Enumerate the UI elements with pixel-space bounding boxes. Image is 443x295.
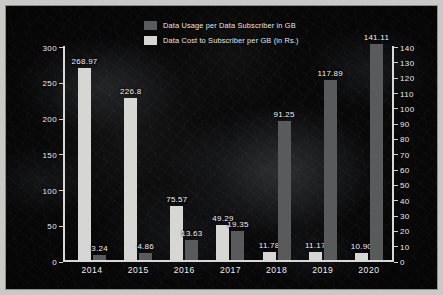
bar-group: 11.17117.892019 bbox=[300, 46, 346, 260]
bar-value-usage: 91.25 bbox=[273, 110, 294, 119]
legend-swatch-cost bbox=[144, 36, 157, 45]
bar-value-usage: 117.89 bbox=[318, 69, 343, 78]
right-axis-tick bbox=[394, 246, 398, 247]
bar-cost[interactable]: 11.17 bbox=[309, 252, 322, 260]
plot-area: 050100150200250300 010203040506070809010… bbox=[63, 46, 394, 262]
right-axis-tick-label: 110 bbox=[400, 89, 414, 98]
right-axis-tick bbox=[394, 170, 398, 171]
bar-usage[interactable]: 91.25 bbox=[278, 121, 291, 261]
bar-usage[interactable]: 19.35 bbox=[231, 231, 244, 261]
right-axis-tick bbox=[394, 231, 398, 232]
right-axis-tick-label: 80 bbox=[400, 135, 410, 144]
bar-group: 11.7891.252018 bbox=[254, 46, 300, 260]
bar-group: 75.5713.632016 bbox=[161, 46, 207, 260]
right-axis-tick bbox=[394, 62, 398, 63]
legend-item-usage: Data Usage per Data Subscriber in GB bbox=[144, 19, 299, 32]
left-axis-tick-label: 50 bbox=[47, 222, 57, 231]
bar-usage[interactable]: 141.11 bbox=[370, 44, 383, 260]
right-axis-tick bbox=[394, 185, 398, 186]
right-axis-tick-label: 70 bbox=[400, 150, 410, 159]
bottom-axis-line bbox=[63, 260, 394, 262]
category-label: 2020 bbox=[358, 265, 379, 275]
right-axis-tick-label: 50 bbox=[400, 181, 410, 190]
category-label: 2014 bbox=[82, 265, 103, 275]
bar-cost[interactable]: 11.78 bbox=[263, 252, 276, 260]
left-axis-tick bbox=[59, 190, 63, 191]
bar-value-usage: 13.63 bbox=[181, 229, 202, 238]
left-axis-tick bbox=[59, 154, 63, 155]
bar-value-usage: 19.35 bbox=[227, 220, 248, 229]
right-axis-tick-label: 90 bbox=[400, 120, 410, 129]
bar-group: 49.2919.352017 bbox=[207, 46, 253, 260]
chart-frame: Data Usage per Data Subscriber in GB Dat… bbox=[0, 0, 443, 295]
category-label: 2015 bbox=[128, 265, 149, 275]
left-axis-tick-label: 0 bbox=[52, 258, 57, 267]
bar-value-usage: 3.24 bbox=[91, 244, 108, 253]
bar-cost[interactable]: 226.8 bbox=[124, 98, 137, 260]
right-axis-tick-label: 10 bbox=[400, 242, 410, 251]
bar-value-cost: 11.17 bbox=[305, 241, 326, 250]
category-label: 2019 bbox=[312, 265, 333, 275]
bar-group: 268.973.242014 bbox=[69, 46, 115, 260]
left-axis-tick bbox=[59, 226, 63, 227]
bar-cost[interactable]: 10.90 bbox=[355, 253, 368, 261]
left-axis-tick-label: 200 bbox=[42, 115, 57, 124]
legend-item-cost: Data Cost to Subscriber per GB (in Rs.) bbox=[144, 34, 299, 47]
right-axis-tick bbox=[394, 154, 398, 155]
left-axis-tick bbox=[59, 83, 63, 84]
left-axis-tick bbox=[59, 119, 63, 120]
bar-cost[interactable]: 49.29 bbox=[216, 225, 229, 260]
left-axis-tick bbox=[59, 262, 63, 263]
legend-swatch-usage bbox=[144, 21, 157, 30]
right-axis-tick bbox=[394, 93, 398, 94]
left-axis-line bbox=[63, 46, 65, 262]
right-axis-tick bbox=[394, 139, 398, 140]
right-axis-tick-label: 30 bbox=[400, 212, 410, 221]
left-axis-tick-label: 300 bbox=[42, 43, 57, 52]
right-axis-tick bbox=[394, 262, 398, 263]
category-label: 2018 bbox=[266, 265, 287, 275]
bar-value-usage: 4.86 bbox=[137, 242, 154, 251]
category-label: 2017 bbox=[220, 265, 241, 275]
right-axis-tick bbox=[394, 124, 398, 125]
right-axis-tick-label: 60 bbox=[400, 166, 410, 175]
left-axis-tick-label: 100 bbox=[42, 186, 57, 195]
bar-value-usage: 141.11 bbox=[364, 33, 389, 42]
right-axis-tick bbox=[394, 47, 398, 48]
left-axis-tick bbox=[59, 47, 63, 48]
right-axis-tick bbox=[394, 200, 398, 201]
bar-value-cost: 75.57 bbox=[166, 195, 187, 204]
bar-usage[interactable]: 117.89 bbox=[324, 80, 337, 261]
right-axis-tick-label: 130 bbox=[400, 58, 415, 67]
bar-value-cost: 10.90 bbox=[351, 242, 372, 251]
bar-group: 10.90141.112020 bbox=[346, 46, 392, 260]
right-axis-tick-label: 120 bbox=[400, 74, 415, 83]
left-axis-tick-label: 250 bbox=[42, 79, 57, 88]
right-axis-tick-label: 40 bbox=[400, 196, 410, 205]
bar-group: 226.84.862015 bbox=[115, 46, 161, 260]
right-axis-tick-label: 140 bbox=[400, 43, 415, 52]
bar-value-cost: 268.97 bbox=[72, 57, 98, 66]
right-axis-tick bbox=[394, 108, 398, 109]
right-axis-tick-label: 100 bbox=[400, 104, 415, 113]
bar-usage[interactable]: 13.63 bbox=[185, 240, 198, 261]
legend-label-usage: Data Usage per Data Subscriber in GB bbox=[163, 21, 296, 30]
left-axis-tick-label: 150 bbox=[42, 150, 57, 159]
bar-usage[interactable]: 3.24 bbox=[93, 255, 106, 260]
right-axis-tick bbox=[394, 216, 398, 217]
bar-value-cost: 226.8 bbox=[120, 87, 141, 96]
right-axis-tick-label: 0 bbox=[400, 258, 405, 267]
bar-usage[interactable]: 4.86 bbox=[139, 253, 152, 260]
chart-legend: Data Usage per Data Subscriber in GB Dat… bbox=[144, 19, 299, 49]
legend-label-cost: Data Cost to Subscriber per GB (in Rs.) bbox=[163, 36, 299, 45]
bar-cost[interactable]: 268.97 bbox=[78, 68, 91, 260]
right-axis-tick-label: 20 bbox=[400, 227, 410, 236]
right-axis-tick bbox=[394, 78, 398, 79]
bar-value-cost: 11.78 bbox=[259, 241, 280, 250]
category-label: 2016 bbox=[174, 265, 195, 275]
chart-canvas: Data Usage per Data Subscriber in GB Dat… bbox=[5, 5, 438, 290]
